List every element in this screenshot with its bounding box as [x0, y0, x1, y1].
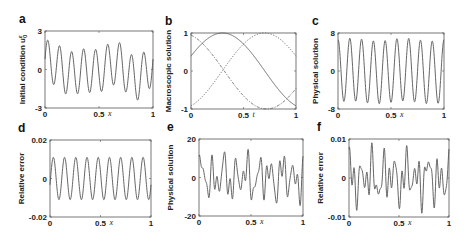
- xtick-label: 1: [301, 218, 306, 227]
- x-axis-label: x: [109, 218, 114, 227]
- curve-b-dotted: [191, 33, 296, 106]
- ytick-label: 8: [331, 29, 336, 38]
- axes-box-d: [50, 140, 151, 217]
- axes-box-c: [338, 33, 444, 109]
- ytick-label: 0: [342, 174, 347, 183]
- xtick-label: 0.5: [393, 219, 405, 228]
- xtick-label: 0.5: [93, 110, 105, 119]
- curve-a-u0: [45, 40, 153, 100]
- ytick-label: -0.01: [328, 213, 347, 222]
- curve-b-dashdot: [191, 35, 296, 109]
- y-axis-label: Relative error: [17, 153, 26, 205]
- xtick-label: 1: [149, 219, 154, 228]
- y-axis-label: Physical solution: [311, 38, 320, 104]
- xtick-label: 0.5: [385, 111, 397, 120]
- curve-f-err: [349, 143, 449, 213]
- ytick-label: 0.02: [31, 136, 47, 145]
- ytick-label: 20: [187, 135, 196, 144]
- xtick-label: 0: [189, 111, 194, 120]
- ytick-label: 0: [38, 66, 43, 75]
- ytick-label: 1: [184, 29, 189, 38]
- xtick-label: 0: [197, 218, 202, 227]
- x-axis-label: x: [407, 218, 412, 227]
- xtick-label: 1: [447, 219, 452, 228]
- xtick-label: 0.5: [245, 218, 257, 227]
- panel-letter-b: b: [165, 14, 172, 28]
- x-axis-label: x: [399, 110, 404, 119]
- ytick-label: 0: [43, 175, 48, 184]
- y-axis-label: Initial condition u0ε: [17, 34, 28, 104]
- xtick-label: 1: [151, 110, 156, 119]
- xtick-label: 0: [336, 111, 341, 120]
- ytick-label: -1: [181, 105, 189, 114]
- panel-b: 00.51t-101Macroscopic solutionb: [164, 14, 299, 120]
- axes-box-e: [199, 139, 303, 216]
- x-axis-label: t: [253, 110, 256, 119]
- curve-e-u: [199, 149, 303, 205]
- ytick-label: 3: [38, 27, 43, 36]
- xtick-label: 0: [43, 110, 48, 119]
- panel-a: 00.51x-303Initial condition u0εa: [17, 12, 156, 119]
- panel-letter-c: c: [312, 14, 319, 28]
- xtick-label: 0.5: [95, 219, 107, 228]
- panel-letter-e: e: [167, 120, 174, 134]
- ytick-label: 0: [192, 174, 197, 183]
- curve-c-u: [338, 38, 444, 103]
- panel-letter-f: f: [317, 120, 322, 134]
- xtick-label: 1: [442, 111, 447, 120]
- panel-f: 00.51x-0.0100.01Relative errorf: [316, 120, 452, 228]
- xtick-label: 0: [347, 219, 352, 228]
- panel-d: 00.51x-0.0200.02Relative errord: [17, 121, 154, 228]
- panel-e: 00.51x-20020Physical solutione: [166, 120, 306, 227]
- curve-d-err: [50, 157, 151, 199]
- figure: 00.51x-303Initial condition u0εa00.51t-1…: [0, 0, 464, 242]
- y-axis-label: Physical solution: [166, 144, 175, 210]
- panel-c: 00.51x-808Physical solutionc: [311, 14, 447, 120]
- ytick-label: 0: [331, 67, 336, 76]
- panel-letter-a: a: [19, 12, 26, 26]
- ytick-label: -0.02: [29, 213, 48, 222]
- ytick-label: 0: [184, 67, 189, 76]
- y-axis-label: Relative error: [316, 152, 325, 204]
- xtick-label: 0: [48, 219, 53, 228]
- xtick-label: 0.5: [238, 111, 250, 120]
- ytick-label: -20: [184, 212, 196, 221]
- ytick-label: 0.01: [330, 135, 346, 144]
- y-axis-label: Macroscopic solution: [164, 30, 173, 112]
- x-axis-label: x: [259, 217, 264, 226]
- x-axis-label: x: [107, 109, 112, 118]
- panel-letter-d: d: [18, 121, 25, 135]
- ytick-label: -8: [328, 105, 336, 114]
- xtick-label: 1: [294, 111, 299, 120]
- ytick-label: -3: [35, 104, 43, 113]
